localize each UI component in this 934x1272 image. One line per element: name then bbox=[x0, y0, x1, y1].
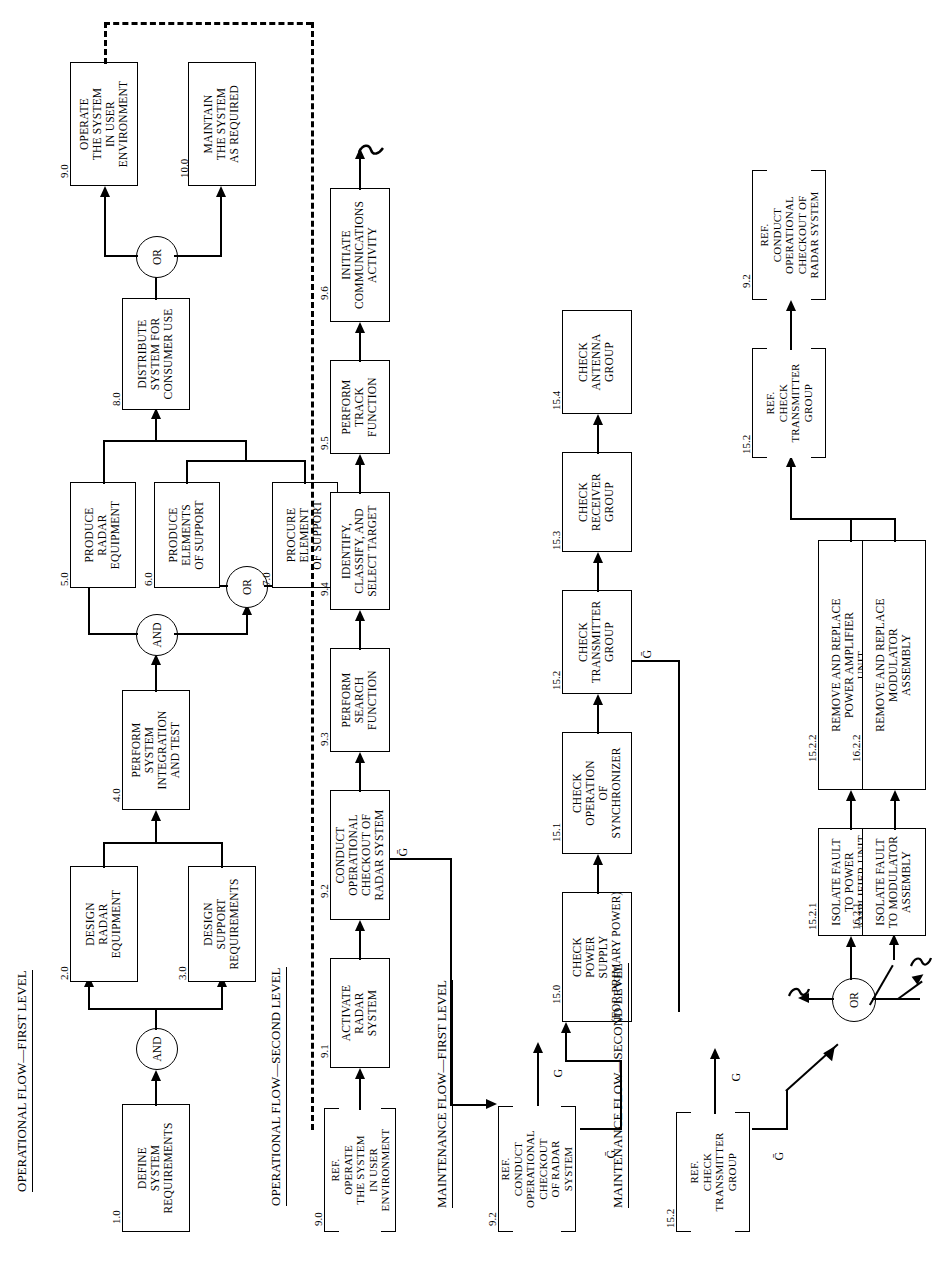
ref-block-9-0: REF.OPERATE THE SYSTEM IN USER ENVIRONME… bbox=[324, 1108, 396, 1232]
block-7-0-text: PROCURE ELEMENT OF SUPPORT bbox=[285, 500, 324, 569]
and-gate-design: AND bbox=[136, 1028, 178, 1070]
block-9-6-id: 9.6 bbox=[312, 282, 336, 294]
block-4-0: PERFORM SYSTEM INTEGRATION AND TEST bbox=[122, 690, 190, 810]
ref-block-15-2-top: REF.CHECK TRANSMITTER GROUP bbox=[752, 348, 826, 458]
block-9-2-text: CONDUCT OPERATIONAL CHECKOUT OF RADAR SY… bbox=[334, 810, 386, 901]
functional-flow-diagram: OPERATIONAL FLOW—FIRST LEVEL DEFINE SYST… bbox=[0, 0, 934, 1272]
dashed-link-horizontal bbox=[104, 22, 312, 25]
block-2-0-text: DESIGN RADAR EQUIPMENT bbox=[84, 890, 123, 958]
block-2-0-id: 2.0 bbox=[52, 962, 76, 974]
block-10-0-id: 10.0 bbox=[170, 158, 198, 170]
block-7-0-id: 7.0 bbox=[254, 568, 278, 580]
block-4-0-id: 4.0 bbox=[104, 784, 128, 796]
block-2-0: DESIGN RADAR EQUIPMENT bbox=[70, 866, 138, 982]
block-1-0: DEFINE SYSTEM REQUIREMENTS bbox=[122, 1104, 190, 1232]
ref-block-9-2-top-text: REF.CONDUCT OPERATIONAL CHECKOUT OF RADA… bbox=[758, 191, 821, 278]
block-9-1: ACTIVATE RADAR SYSTEM bbox=[330, 958, 390, 1068]
block-15-2-2-id: 15.2.2 bbox=[796, 740, 828, 752]
signal-label-nogo-15-2: Ḡ bbox=[636, 640, 658, 655]
ref-block-9-2-text: REF.CONDUCT OPERATIONAL CHECKOUT OF RADA… bbox=[499, 1130, 574, 1208]
block-9-0-id: 9.0 bbox=[52, 160, 76, 172]
block-15-3-text: CHECK RECEIVER GROUP bbox=[577, 473, 616, 531]
continuation-squiggle-icon-1 bbox=[355, 140, 387, 162]
ref-block-9-2: REF.CONDUCT OPERATIONAL CHECKOUT OF RADA… bbox=[498, 1106, 576, 1232]
block-16-2-1-text: ISOLATE FAULT TO MODULATOR ASSEMBLY bbox=[874, 836, 913, 928]
block-9-4-text: IDENTIFY, CLASSIFY, AND SELECT TARGET bbox=[340, 505, 379, 597]
block-15-2-id: 15.2 bbox=[542, 670, 570, 682]
or-gate-operate-maintain: OR bbox=[136, 236, 178, 278]
block-1-0-text: DEFINE SYSTEM REQUIREMENTS bbox=[136, 1122, 175, 1213]
ref-block-9-2-id: 9.2 bbox=[480, 1208, 504, 1220]
block-15-0-id: 15.0 bbox=[542, 984, 570, 996]
block-15-4-id: 15.4 bbox=[542, 390, 570, 402]
block-9-0-text: OPERATE THE SYSTEM IN USER ENVIRONMENT bbox=[78, 81, 130, 168]
block-15-2-1-id: 15.2.1 bbox=[796, 908, 828, 920]
block-15-2-text: CHECK TRANSMITTER GROUP bbox=[577, 601, 616, 684]
signal-label-nogo-15-2-bottom: Ḡ bbox=[768, 1142, 790, 1157]
block-15-1-text: CHECK OPERATION OF SYNCHRONIZER bbox=[571, 747, 623, 838]
dashed-link-vertical-left bbox=[104, 22, 107, 64]
block-1-0-id: 1.0 bbox=[104, 1206, 128, 1218]
ref-block-15-2-bottom: REF.CHECK TRANSMITTER GROUP bbox=[676, 1112, 750, 1232]
continuation-squiggle-icon-2 bbox=[786, 980, 812, 1002]
block-3-0-id: 3.0 bbox=[170, 962, 194, 974]
block-5-0: PRODUCE RADAR EQUIPMENT bbox=[70, 482, 136, 588]
block-9-3-text: PERFORM SEARCH FUNCTION bbox=[340, 670, 379, 730]
block-15-4-text: CHECK ANTENNA GROUP bbox=[577, 334, 616, 391]
block-15-1-id: 15.1 bbox=[542, 822, 570, 834]
block-9-5-text: PERFORM TRACK FUNCTION bbox=[340, 377, 379, 437]
and-gate-produce: AND bbox=[136, 614, 178, 656]
block-9-3-id: 9.3 bbox=[312, 728, 336, 740]
block-16-2-2-id: 16.2.2 bbox=[840, 740, 872, 752]
signal-label-go-15-2: G bbox=[726, 1064, 746, 1079]
block-16-2-2: REMOVE AND REPLACE MODULATOR ASSEMBLY bbox=[862, 540, 926, 790]
block-9-4-id: 9.4 bbox=[312, 578, 336, 590]
ref-block-9-0-id: 9.0 bbox=[306, 1208, 330, 1220]
ref-block-9-2-top: REF.CONDUCT OPERATIONAL CHECKOUT OF RADA… bbox=[752, 170, 826, 300]
block-9-0: OPERATE THE SYSTEM IN USER ENVIRONMENT bbox=[70, 62, 138, 186]
block-9-2-id: 9.2 bbox=[312, 880, 336, 892]
block-9-1-text: ACTIVATE RADAR SYSTEM bbox=[340, 985, 379, 1041]
block-8-0-id: 8.0 bbox=[104, 388, 128, 400]
signal-label-go-9-2: G bbox=[548, 1060, 568, 1075]
ref-block-15-2-top-id: 15.2 bbox=[732, 434, 760, 446]
block-15-4: CHECK ANTENNA GROUP bbox=[562, 310, 632, 414]
block-16-2-1-id: 16.2.1 bbox=[840, 908, 872, 920]
block-9-2: CONDUCT OPERATIONAL CHECKOUT OF RADAR SY… bbox=[330, 790, 390, 920]
ref-block-9-2-top-id: 9.2 bbox=[732, 268, 760, 280]
block-9-5: PERFORM TRACK FUNCTION bbox=[330, 360, 390, 454]
block-6-0-id: 6.0 bbox=[136, 568, 160, 580]
signal-label-nogo-9-2: Ḡ bbox=[392, 838, 414, 853]
block-15-3-id: 15.3 bbox=[542, 530, 570, 542]
block-15-1: CHECK OPERATION OF SYNCHRONIZER bbox=[562, 732, 632, 854]
or-gate-maintenance: OR bbox=[832, 978, 876, 1022]
ref-block-9-0-text: REF.OPERATE THE SYSTEM IN USER ENVIRONME… bbox=[329, 1129, 392, 1212]
ref-block-15-2-bottom-id: 15.2 bbox=[656, 1208, 684, 1220]
block-16-2-2-text: REMOVE AND REPLACE MODULATOR ASSEMBLY bbox=[874, 598, 913, 731]
block-8-0: DISTRIBUTE SYSTEM FOR CONSUMER USE bbox=[122, 298, 190, 410]
block-9-5-id: 9.5 bbox=[312, 432, 336, 444]
block-3-0-text: DESIGN SUPPORT REQUIREMENTS bbox=[202, 878, 241, 969]
block-6-0: PRODUCE ELEMENTS OF SUPPORT bbox=[154, 482, 220, 588]
continuation-squiggle-icon-3 bbox=[908, 948, 934, 972]
block-10-0-text: MAINTAIN THE SYSTEM AS REQUIRED bbox=[202, 85, 241, 163]
block-6-0-text: PRODUCE ELEMENTS OF SUPPORT bbox=[167, 500, 206, 569]
dashed-link-vertical-right bbox=[311, 22, 314, 1130]
ref-block-15-2-bottom-text: REF.CHECK TRANSMITTER GROUP bbox=[688, 1132, 738, 1211]
block-5-0-id: 5.0 bbox=[52, 568, 76, 580]
block-4-0-text: PERFORM SYSTEM INTEGRATION AND TEST bbox=[130, 711, 182, 790]
block-9-6: INITIATE COMMUNICATIONS ACTIVITY bbox=[330, 188, 390, 322]
block-3-0: DESIGN SUPPORT REQUIREMENTS bbox=[188, 866, 256, 982]
block-9-1-id: 9.1 bbox=[312, 1040, 336, 1052]
block-9-4: IDENTIFY, CLASSIFY, AND SELECT TARGET bbox=[330, 492, 390, 610]
block-8-0-text: DISTRIBUTE SYSTEM FOR CONSUMER USE bbox=[136, 309, 175, 400]
block-10-0: MAINTAIN THE SYSTEM AS REQUIRED bbox=[188, 62, 256, 186]
block-9-6-text: INITIATE COMMUNICATIONS ACTIVITY bbox=[340, 201, 379, 309]
block-15-3: CHECK RECEIVER GROUP bbox=[562, 452, 632, 552]
block-9-3: PERFORM SEARCH FUNCTION bbox=[330, 648, 390, 752]
block-5-0-text: PRODUCE RADAR EQUIPMENT bbox=[83, 501, 122, 569]
block-15-2: CHECK TRANSMITTER GROUP bbox=[562, 590, 632, 694]
ref-block-15-2-top-text: REF.CHECK TRANSMITTER GROUP bbox=[764, 363, 814, 442]
